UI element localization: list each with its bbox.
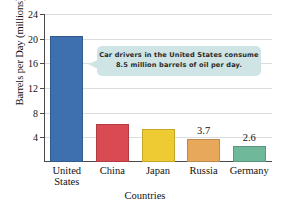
bar-united-states	[50, 36, 83, 162]
bar-chart: Barrels per Day (millions) 3.72.6 481216…	[0, 0, 290, 206]
category-label-germany: Germany	[219, 166, 279, 177]
bar-japan	[142, 129, 175, 162]
y-tick-label: 8	[16, 107, 38, 118]
plot-area: 3.72.6	[44, 14, 272, 162]
x-axis-title: Countries	[0, 190, 290, 201]
bar-germany	[233, 146, 266, 162]
y-tick-label: 20	[16, 33, 38, 44]
y-tick-label: 12	[16, 83, 38, 94]
callout-line-1: Car drivers in the United States consume	[99, 51, 258, 61]
callout-line-2: 8.5 million barrels of oil per day.	[116, 61, 242, 71]
category-label-line: States	[37, 177, 97, 188]
y-tick	[40, 39, 44, 40]
bar-china	[96, 124, 129, 162]
y-tick-label: 4	[16, 132, 38, 143]
y-axis-line	[44, 14, 45, 162]
y-tick	[40, 14, 44, 15]
y-tick-label: 16	[16, 58, 38, 69]
bar-russia	[187, 139, 220, 162]
bar-value-label: 3.7	[184, 125, 224, 136]
y-tick	[40, 63, 44, 64]
y-tick	[40, 88, 44, 89]
bar-value-label: 2.6	[229, 132, 269, 143]
gridline	[44, 14, 272, 15]
y-tick	[40, 137, 44, 138]
category-label-line: Germany	[219, 166, 279, 177]
y-tick	[40, 113, 44, 114]
callout-annotation: Car drivers in the United States consume…	[97, 46, 261, 76]
y-tick-label: 24	[16, 9, 38, 20]
